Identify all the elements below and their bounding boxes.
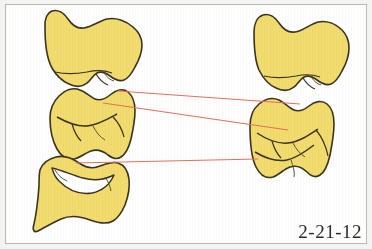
molar-crown-bottom-left — [33, 156, 129, 231]
tooth-outline-shape — [254, 14, 349, 90]
plate-number-label: 2-21-12 — [298, 221, 362, 243]
molar-crown-top-left — [45, 10, 142, 86]
molar-crown-top-right — [254, 14, 349, 90]
figure-page: 2-21-12 — [0, 0, 372, 249]
connector-line-1 — [118, 91, 300, 104]
illustration-plate: 2-21-12 — [0, 0, 372, 249]
molar-crown-middle-right — [250, 99, 334, 178]
dental-illustration — [0, 0, 372, 249]
tooth-outline-shape — [50, 89, 135, 159]
connector-line-3 — [76, 159, 258, 163]
tooth-outline-shape — [33, 156, 129, 231]
molar-crown-middle-left — [50, 89, 135, 159]
tooth-outline-shape — [45, 10, 142, 86]
